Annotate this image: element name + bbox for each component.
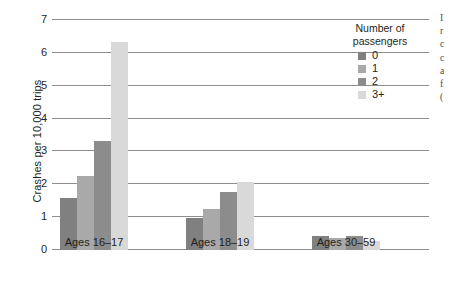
legend-row: 0 bbox=[358, 49, 428, 62]
page-edge-text-line: ( bbox=[440, 91, 455, 104]
y-axis-title: Crashes per 10,000 trips bbox=[31, 46, 43, 236]
page-edge-text-line: I bbox=[440, 12, 455, 25]
bar bbox=[111, 42, 128, 250]
legend-items: 0123+ bbox=[332, 49, 428, 101]
page-edge-text-line: a bbox=[440, 65, 455, 78]
legend-label: 0 bbox=[372, 50, 378, 61]
legend-row: 3+ bbox=[358, 88, 428, 101]
page-edge-text-line: c bbox=[440, 38, 455, 51]
page-edge-text: Irccaf( bbox=[440, 12, 455, 104]
legend-row: 1 bbox=[358, 62, 428, 75]
legend-label: 2 bbox=[372, 76, 378, 87]
y-axis-tick-label: 4 bbox=[41, 112, 47, 124]
x-axis-group-label: Ages 18–19 bbox=[191, 236, 250, 248]
x-axis-group-label: Ages 16–17 bbox=[65, 236, 124, 248]
chart-figure: Crashes per 10,000 trips 01234567 Ages 1… bbox=[0, 0, 455, 286]
y-axis-tick-label: 0 bbox=[41, 243, 47, 255]
page-edge-text-line: r bbox=[440, 25, 455, 38]
y-axis-tick-label: 2 bbox=[41, 177, 47, 189]
legend-swatch-icon bbox=[358, 91, 366, 99]
bar bbox=[94, 141, 111, 250]
y-axis-tick-label: 5 bbox=[41, 79, 47, 91]
legend-label: 1 bbox=[372, 63, 378, 74]
legend-swatch-icon bbox=[358, 65, 366, 73]
page-edge-text-line: f bbox=[440, 78, 455, 91]
y-axis-tick-label: 7 bbox=[41, 13, 47, 25]
legend: Number of passengers 0123+ bbox=[332, 22, 428, 101]
x-axis-group-label: Ages 30–59 bbox=[317, 236, 376, 248]
y-axis-tick-label: 6 bbox=[41, 46, 47, 58]
legend-title: Number of passengers bbox=[332, 22, 428, 47]
legend-swatch-icon bbox=[358, 52, 366, 60]
legend-title-line-2: passengers bbox=[332, 35, 428, 48]
legend-label: 3+ bbox=[372, 89, 385, 100]
legend-title-line-1: Number of bbox=[332, 22, 428, 35]
legend-row: 2 bbox=[358, 75, 428, 88]
legend-swatch-icon bbox=[358, 78, 366, 86]
y-axis-tick-label: 1 bbox=[41, 210, 47, 222]
y-axis-tick-label: 3 bbox=[41, 144, 47, 156]
page-edge-text-line: c bbox=[440, 52, 455, 65]
